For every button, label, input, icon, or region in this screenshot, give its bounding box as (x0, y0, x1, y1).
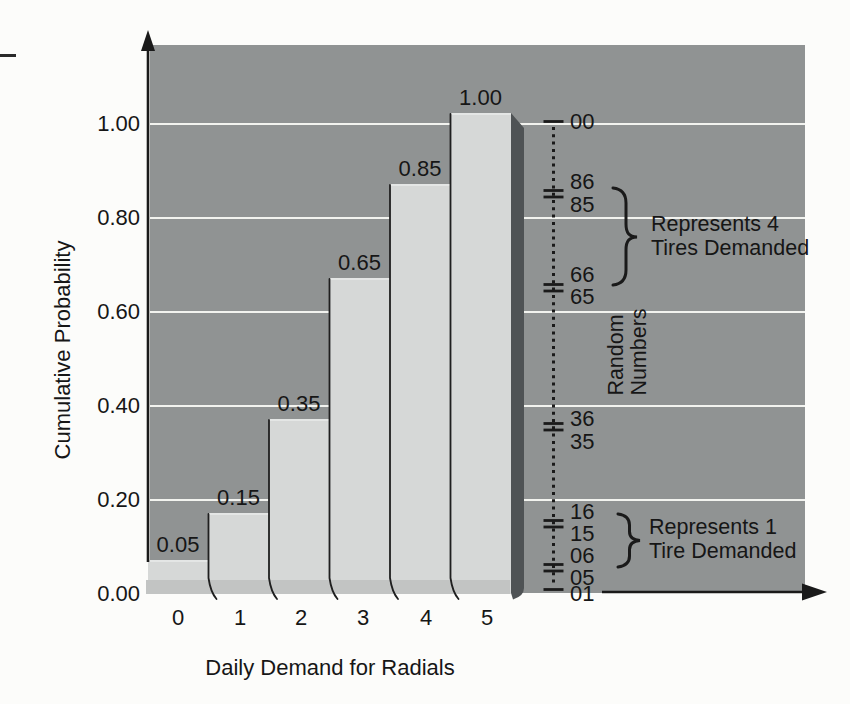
bar-label-5: 1.00 (451, 86, 511, 110)
annotation-represents-1-line1: Represents 1 (649, 516, 796, 540)
bar-label-2: 0.35 (269, 392, 329, 416)
bar-label-1: 0.15 (209, 486, 269, 510)
bar-demand-5 (451, 113, 512, 594)
y-tick-0-20: 0.20 (50, 488, 140, 512)
x-tick-1: 1 (234, 606, 246, 630)
bar-label-3: 0.65 (330, 251, 390, 275)
annotation-represents-1: Represents 1 Tire Demanded (649, 516, 796, 563)
x-tick-4: 4 (420, 606, 432, 630)
x-tick-2: 2 (295, 606, 307, 630)
random-axis-title-line2: Numbers (627, 308, 650, 395)
x-axis-title: Daily Demand for Radials (205, 656, 454, 680)
random-tick-01: 01 (570, 582, 594, 606)
random-axis-title: Random Numbers (605, 308, 650, 395)
bar-label-0: 0.05 (148, 533, 208, 557)
random-axis-title-line1: Random (605, 308, 628, 395)
bar-base-strip (146, 580, 510, 594)
x-tick-0: 0 (172, 606, 184, 630)
random-tick-86: 86 (570, 170, 594, 194)
random-tick-65: 65 (570, 285, 594, 309)
bar-demand-2 (269, 419, 330, 594)
random-tick-85: 85 (570, 193, 594, 217)
figure: 1.00 0.80 0.60 0.40 0.20 0.00 Cumulative… (0, 0, 850, 704)
bar-label-4: 0.85 (390, 157, 450, 181)
y-tick-0-80: 0.80 (50, 206, 140, 230)
x-tick-3: 3 (357, 606, 369, 630)
x-tick-5: 5 (481, 606, 493, 630)
random-tick-36: 36 (570, 407, 594, 431)
random-tick-35: 35 (570, 430, 594, 454)
page-margin-mark (0, 54, 16, 57)
annotation-represents-4-line1: Represents 4 (651, 213, 809, 237)
annotation-represents-1-line2: Tire Demanded (649, 540, 796, 564)
y-tick-0-00: 0.00 (50, 582, 140, 606)
annotation-represents-4: Represents 4 Tires Demanded (651, 213, 809, 260)
bar-demand-3 (330, 278, 391, 594)
annotation-represents-4-line2: Tires Demanded (651, 237, 809, 261)
x-axis-arrow-icon (802, 584, 827, 601)
y-axis-title: Cumulative Probability (51, 241, 75, 460)
y-tick-1-00: 1.00 (50, 112, 140, 136)
random-tick-00: 00 (570, 110, 594, 134)
bar-demand-4 (390, 184, 451, 594)
